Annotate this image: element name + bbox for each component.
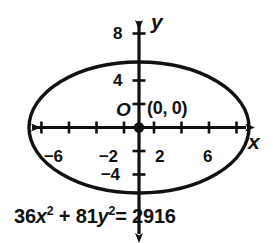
equation-var-x: x: [36, 205, 47, 227]
y-tick-label-8: 8: [113, 25, 122, 42]
equation-plus: +: [59, 205, 70, 227]
origin-letter-label: O: [116, 100, 131, 119]
equation-equals: =: [115, 205, 126, 227]
equation-coef-x: 36: [14, 205, 36, 227]
x-tick-label-minus6: −6: [44, 148, 62, 165]
x-tick-label-minus2: −2: [99, 148, 117, 165]
x-axis-label: x: [248, 131, 260, 152]
equation-constant: 2916: [132, 205, 176, 227]
origin-point-label: (0, 0): [147, 99, 187, 117]
equation-var-y: y: [98, 205, 109, 227]
origin-dot: [134, 122, 144, 132]
equation-exp-x: 2: [47, 204, 54, 218]
ellipse-figure: −6 −2 2 6 8 4 −4 y x O (0, 0) 36x2 + 81y…: [0, 0, 273, 243]
equation-label: 36x2 + 81y2= 2916: [14, 206, 176, 226]
x-tick-label-2: 2: [155, 148, 164, 165]
x-tick-label-6: 6: [203, 148, 212, 165]
y-axis-label: y: [151, 11, 163, 32]
y-tick-label-minus4: −4: [101, 166, 119, 183]
y-tick-label-4: 4: [113, 72, 122, 89]
equation-coef-y: 81: [76, 205, 98, 227]
